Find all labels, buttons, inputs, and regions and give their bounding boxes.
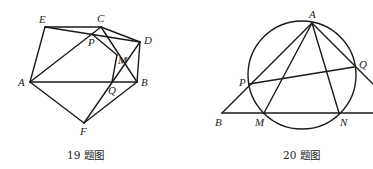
segment-af (30, 82, 84, 123)
label-e: E (38, 13, 46, 25)
caption-20: 20 题图 (283, 149, 320, 161)
label-c: C (97, 12, 105, 24)
segment-db (137, 42, 140, 82)
label-p: P (87, 36, 95, 48)
label-p: P (238, 76, 246, 88)
label-n: N (339, 116, 348, 128)
segment-ba (222, 23, 312, 113)
label-a: A (17, 76, 25, 88)
label-q: Q (359, 58, 367, 70)
segment-cd (101, 27, 140, 42)
label-b: B (141, 76, 148, 88)
figure-19: E C D A B F P Q M 19 题图 (17, 12, 152, 161)
segment-ea (30, 27, 45, 82)
label-b: B (215, 116, 222, 128)
figure-canvas: E C D A B F P Q M 19 题图 A P Q B M N 20 题… (0, 0, 373, 169)
label-f: F (79, 125, 87, 137)
label-d: D (143, 34, 152, 46)
label-a: A (308, 8, 316, 20)
label-m: M (254, 116, 265, 128)
figure-20: A P Q B M N 20 题图 (215, 8, 373, 161)
segment-am (264, 23, 312, 113)
label-m: M (117, 54, 128, 66)
caption-19: 19 题图 (67, 149, 104, 161)
label-q: Q (108, 84, 116, 96)
